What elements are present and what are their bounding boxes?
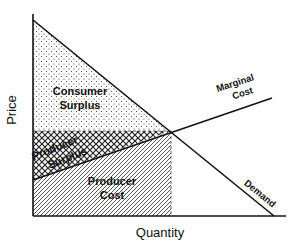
producer-cost-label-2: Cost <box>100 189 125 201</box>
consumer-surplus-label-2: Surplus <box>60 99 101 111</box>
consumer-surplus-label-1: Consumer <box>53 85 108 97</box>
y-axis-label: Price <box>4 95 19 125</box>
producer-cost-label-1: Producer <box>88 175 137 187</box>
x-axis-label: Quantity <box>136 225 185 240</box>
surplus-diagram: Consumer Surplus Producer Surplus Produc… <box>0 0 302 246</box>
